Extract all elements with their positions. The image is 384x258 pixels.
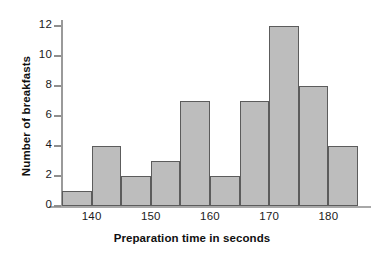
y-tick-label: 6 [12, 108, 52, 120]
histogram-bar [328, 146, 358, 206]
x-tick-label: 140 [70, 210, 114, 222]
y-tick-label: 4 [12, 138, 52, 150]
histogram-bar [92, 146, 122, 206]
y-tick-label: 10 [12, 48, 52, 60]
histogram-bar [180, 101, 210, 206]
histogram-bar [62, 191, 92, 206]
plot-area [62, 20, 358, 206]
y-tick-mark [54, 145, 61, 147]
x-tick-label: 170 [247, 210, 291, 222]
histogram-bar [151, 161, 181, 206]
y-tick-label: 12 [12, 18, 52, 30]
y-tick-label: 8 [12, 78, 52, 90]
x-tick-label: 180 [306, 210, 350, 222]
x-tick-label: 150 [129, 210, 173, 222]
y-tick-mark [54, 85, 61, 87]
y-tick-mark [54, 175, 61, 177]
y-tick-mark [54, 25, 61, 27]
histogram-figure: Number of breakfasts 024681012 140150160… [0, 0, 384, 258]
histogram-bar [210, 176, 240, 206]
y-tick-mark [54, 55, 61, 57]
x-axis-line [49, 206, 371, 208]
x-tick-label: 160 [188, 210, 232, 222]
histogram-bar [121, 176, 151, 206]
histogram-bar [269, 26, 299, 206]
histogram-bar [299, 86, 329, 206]
y-tick-mark [54, 205, 61, 207]
y-tick-mark [54, 115, 61, 117]
histogram-bar [240, 101, 270, 206]
y-tick-label: 0 [12, 198, 52, 210]
y-tick-label: 2 [12, 168, 52, 180]
x-axis-title: Preparation time in seconds [0, 232, 384, 244]
